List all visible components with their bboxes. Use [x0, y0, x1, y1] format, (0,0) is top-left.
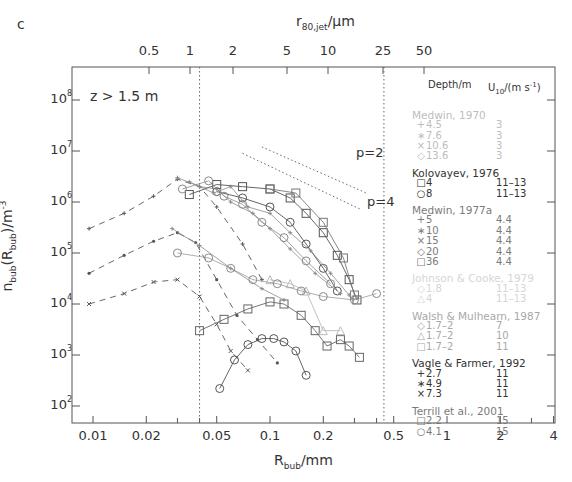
marker-star: [152, 240, 155, 243]
legend-wind: 3: [496, 131, 546, 141]
legend-group-title: Medwin, 1977a: [412, 205, 552, 215]
legend-depth: 8: [426, 189, 496, 199]
legend-depth: 4.5: [426, 120, 496, 130]
legend-marker-icon: ×: [416, 389, 426, 399]
legend-group: Kolovayev, 1976□411–13○811–13: [412, 168, 552, 199]
data-cloud-line: [177, 253, 376, 300]
top-tick-label: 1: [186, 43, 194, 58]
y-tick-label: 106: [50, 193, 72, 208]
x-tick-label: 0.01: [79, 428, 108, 443]
legend-depth: 7.3: [426, 389, 496, 399]
slope-guide: [243, 153, 362, 210]
legend-entry: □364.4: [412, 257, 552, 267]
legend-wind: 15: [496, 427, 546, 437]
x-tick-label: 0.1: [260, 428, 281, 443]
legend-marker-icon: △: [416, 294, 426, 304]
top-tick-label: 50: [416, 43, 433, 58]
legend-entry: ◇13.63: [412, 151, 552, 161]
data-cloud-line: [177, 178, 340, 294]
y-tick-label: 107: [50, 142, 72, 157]
legend-group: Walsh & Mulhearn, 1987◇1.7–27△1.7–210□1.…: [412, 311, 552, 353]
legend-entry: ◇1.811–13: [412, 284, 552, 294]
y-tick-label: 108: [50, 91, 72, 106]
x-tick-label: 0.5: [383, 428, 404, 443]
legend-header-wind: U10/(m s-1): [488, 80, 541, 98]
marker-star: [87, 272, 90, 275]
legend-header-depth: Depth/m: [428, 80, 488, 98]
slope-label-2: p=4: [367, 194, 394, 209]
legend-entry: □1.7–211: [412, 342, 552, 352]
legend-entry: ○811–13: [412, 189, 552, 199]
marker-star: [215, 278, 218, 281]
series-line: [270, 189, 354, 295]
legend-wind: 3: [496, 141, 546, 151]
legend-entry: ○4.115: [412, 427, 552, 437]
legend-wind: 4.4: [496, 257, 546, 267]
legend-wind: 3: [496, 120, 546, 130]
x-tick-label: 0.02: [132, 428, 161, 443]
legend-depth: 36: [426, 257, 496, 267]
top-tick-label: 2: [229, 43, 237, 58]
y-tick-label: 103: [50, 346, 72, 361]
legend-entry: △411–13: [412, 294, 552, 304]
legend-marker-icon: +: [416, 120, 426, 130]
legend-group: Johnson & Cooke, 1979◇1.811–13△411–13: [412, 273, 552, 304]
legend-marker-icon: □: [416, 342, 426, 352]
legend-marker-icon: □: [416, 257, 426, 267]
legend-depth: 4: [426, 178, 496, 188]
slope-label-1: p=2: [356, 145, 383, 160]
data-cloud-line: [182, 181, 330, 284]
series-line: [200, 302, 360, 357]
series-line: [89, 179, 262, 279]
depth-annotation: z > 1.5 m: [90, 88, 158, 104]
top-axis-title: r80,jet/µm: [296, 13, 355, 32]
x-tick-label: 0.05: [202, 428, 231, 443]
legend-entry: +4.53: [412, 120, 552, 130]
legend-wind: 11–13: [496, 189, 546, 199]
y-tick-label: 104: [50, 295, 72, 310]
marker-star: [276, 361, 279, 364]
top-tick-label: 5: [283, 43, 291, 58]
legend-group: Medwin, 1977a+54.4∗104.4×154.4◇204.4□364…: [412, 205, 552, 267]
legend-depth: 1.7–2: [426, 342, 496, 352]
y-tick-label: 102: [50, 397, 72, 412]
legend-group: Terrill et al., 2001□2.215○4.115: [412, 406, 552, 437]
legend-depth: 4.1: [426, 427, 496, 437]
panel-label: c: [17, 16, 25, 32]
legend-marker-icon: ○: [416, 189, 426, 199]
legend-marker-icon: ○: [416, 427, 426, 437]
legend-group: Vagle & Farmer, 1992+2.711∗4.911×7.311: [412, 358, 552, 400]
top-tick-label: 10: [320, 43, 337, 58]
x-tick-label: 0.2: [313, 428, 334, 443]
legend-wind: 11–13: [496, 294, 546, 304]
legend-depth: 1.8: [426, 284, 496, 294]
legend-entry: ×7.311: [412, 389, 552, 399]
legend-depth: 13.6: [426, 151, 496, 161]
legend-marker-icon: ◇: [416, 151, 426, 161]
legend-depth: 4: [426, 294, 496, 304]
legend-wind: 11: [496, 342, 546, 352]
legend-header: Depth/m U10/(m s-1): [428, 80, 552, 98]
legend-entry: □411–13: [412, 178, 552, 188]
legend-wind: 3: [496, 151, 546, 161]
bottom-axis-title: Rbub/mm: [274, 452, 333, 471]
data-cloud-line: [172, 229, 284, 300]
legend: Depth/m U10/(m s-1) Medwin, 1970+4.53∗7.…: [412, 80, 552, 443]
top-tick-label: 25: [375, 43, 392, 58]
y-tick-label: 105: [50, 244, 72, 259]
slope-guide: [262, 147, 366, 193]
legend-wind: 11: [496, 389, 546, 399]
series-line: [89, 233, 277, 363]
legend-group-title: Kolovayev, 1976: [412, 168, 552, 178]
marker-star: [123, 254, 126, 257]
top-tick-label: 0.5: [139, 43, 160, 58]
legend-group: Medwin, 1970+4.53∗7.63×10.63◇13.63: [412, 110, 552, 162]
